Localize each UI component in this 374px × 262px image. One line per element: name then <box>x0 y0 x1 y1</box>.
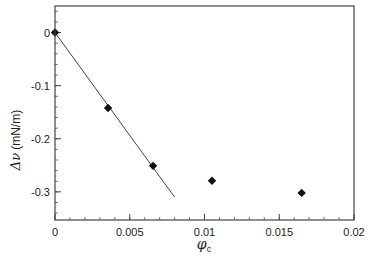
x-tick-label: 0.005 <box>116 226 144 238</box>
diamond-marker <box>104 104 112 112</box>
x-tick-label: 0 <box>52 226 58 238</box>
y-tick-label: -0.2 <box>31 133 50 145</box>
y-tick-label: 0 <box>44 27 50 39</box>
diamond-marker <box>208 177 216 185</box>
tick-labels: 00.0050.010.0150.020-0.1-0.2-0.3 <box>31 27 365 238</box>
plot-frame <box>55 6 354 220</box>
y-tick-label: -0.1 <box>31 80 50 92</box>
x-axis-label: φc <box>197 236 212 254</box>
minor-ticks <box>55 11 354 220</box>
chart: 00.0050.010.0150.020-0.1-0.2-0.3 φc Δν(m… <box>0 0 374 262</box>
fit-line-segment <box>55 33 175 198</box>
svg-text:Δν(mN/m): Δν(mN/m) <box>8 110 23 171</box>
fit-line <box>55 33 175 198</box>
y-tick-label: -0.3 <box>31 186 50 198</box>
y-axis-label: Δν(mN/m) <box>8 110 23 171</box>
diamond-marker <box>297 189 305 197</box>
x-tick-label: 0.02 <box>343 226 364 238</box>
major-ticks <box>55 33 354 220</box>
data-markers <box>51 28 306 197</box>
x-tick-label: 0.015 <box>265 226 293 238</box>
